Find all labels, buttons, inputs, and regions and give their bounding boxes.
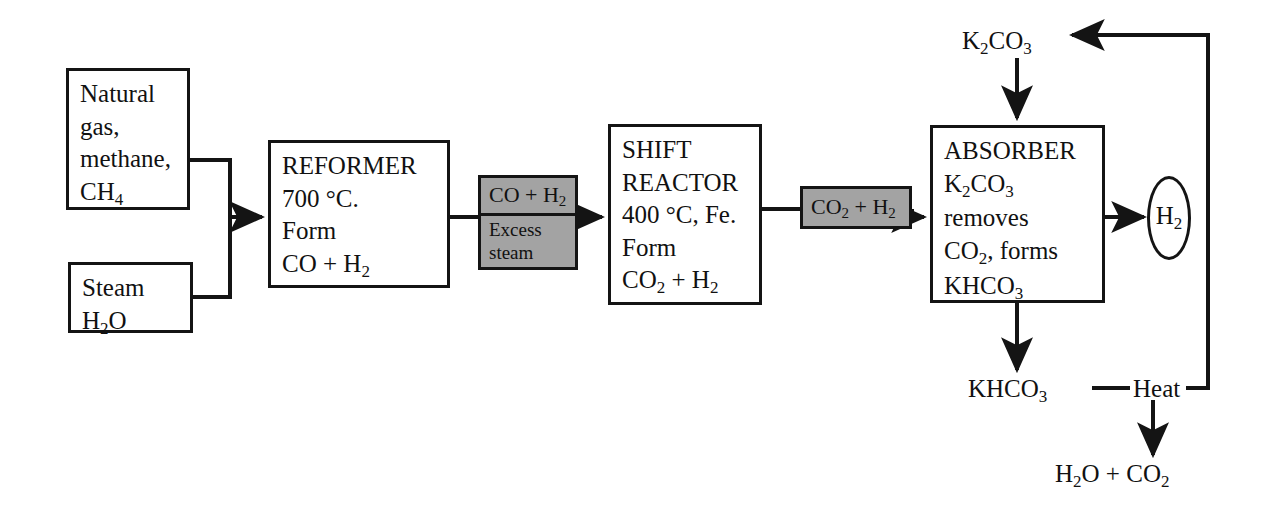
feed-gas-line-2: gas, <box>80 111 183 144</box>
absorber-text: ABSORBER K2CO3 removes CO2, forms KHCO3 <box>944 135 1098 305</box>
reformer-action: Form <box>282 215 443 248</box>
stream-co-h2-bottom-line2: steam <box>481 242 575 264</box>
stream-co2-h2-text: CO2 + H2 <box>803 194 909 222</box>
node-shift-reactor: SHIFT REACTOR 400 °C, Fe. Form CO2 + H2 <box>608 124 762 305</box>
absorber-action: removes <box>944 202 1098 235</box>
feed-gas-line-3: methane, <box>80 143 183 176</box>
shift-reactor-product: CO2 + H2 <box>622 264 755 299</box>
node-hydrogen-product: H2 <box>1147 176 1191 260</box>
hydrogen-product-text: H2 <box>1156 202 1183 234</box>
reformer-temperature: 700 °C. <box>282 183 443 216</box>
node-reformer: REFORMER 700 °C. Form CO + H2 <box>268 140 450 288</box>
shift-reactor-title-line-2: REACTOR <box>622 167 755 200</box>
absorber-product: KHCO3 <box>944 270 1098 305</box>
reformer-title: REFORMER <box>282 150 443 183</box>
reformer-text: REFORMER 700 °C. Form CO + H2 <box>282 150 443 282</box>
wire-feed-steam <box>193 217 230 297</box>
feed-gas-line-1: Natural <box>80 78 183 111</box>
shift-reactor-text: SHIFT REACTOR 400 °C, Fe. Form CO2 + H2 <box>622 134 755 299</box>
absorber-title: ABSORBER <box>944 135 1098 168</box>
absorber-removed: CO2, forms <box>944 235 1098 270</box>
natural-gas-feed-text: Natural gas, methane, CH4 <box>80 78 183 210</box>
feed-gas-line-4: CH4 <box>80 176 183 211</box>
shift-reactor-action: Form <box>622 232 755 265</box>
stream-box-divider <box>478 213 578 216</box>
label-regeneration-products: H2O + CO2 <box>1055 461 1169 490</box>
stream-co-h2-top: CO + H2 <box>481 182 575 210</box>
steam-feed-text: Steam H2O <box>82 272 186 339</box>
process-flow-diagram: Natural gas, methane, CH4 Steam H2O REFO… <box>0 0 1270 512</box>
stream-box-co2-h2: CO2 + H2 <box>800 186 912 229</box>
stream-co-h2-bottom-line1: Excess <box>481 219 575 241</box>
absorber-reagent: K2CO3 <box>944 168 1098 203</box>
label-bicarbonate-output: KHCO3 <box>968 376 1047 405</box>
wire-feed-gas <box>190 160 230 217</box>
feed-steam-line-2: H2O <box>82 305 186 340</box>
shift-reactor-title-line-1: SHIFT <box>622 134 755 167</box>
node-steam-feed: Steam H2O <box>68 262 193 333</box>
reformer-product: CO + H2 <box>282 248 443 283</box>
label-potassium-carbonate-feed: K2CO3 <box>962 28 1032 57</box>
label-heat: Heat <box>1133 376 1180 401</box>
stream-box-co-h2: CO + H2 Excess steam <box>478 175 578 270</box>
shift-reactor-conditions: 400 °C, Fe. <box>622 199 755 232</box>
node-natural-gas-feed: Natural gas, methane, CH4 <box>66 68 190 210</box>
feed-steam-line-1: Steam <box>82 272 186 305</box>
node-absorber: ABSORBER K2CO3 removes CO2, forms KHCO3 <box>930 125 1105 303</box>
